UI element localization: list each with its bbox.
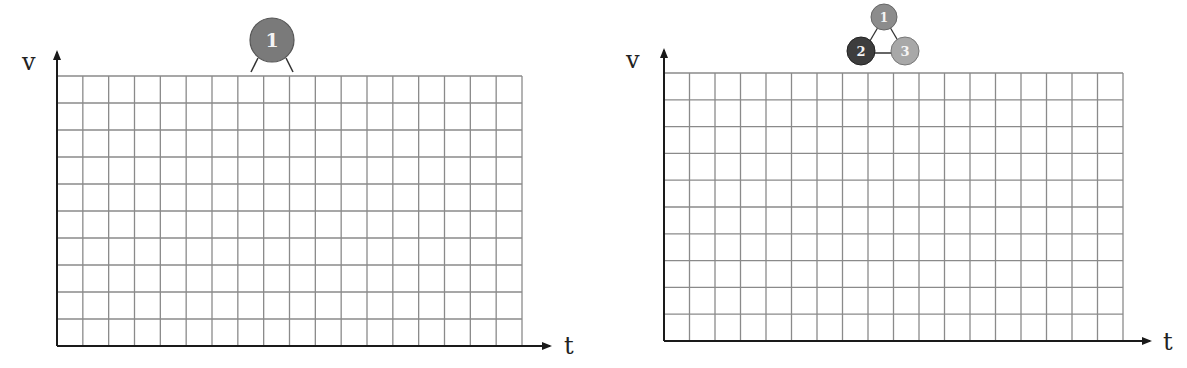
- right-grid: [664, 73, 1123, 341]
- right-atom-1-label: 1: [880, 11, 888, 25]
- left-bond-leg-1: [251, 58, 258, 72]
- left-panel: v t 1: [21, 18, 574, 360]
- diagram-canvas: v t 1 v t 1 2 3: [0, 0, 1187, 368]
- right-x-axis-label: t: [1163, 328, 1173, 356]
- right-y-axis-label: v: [625, 46, 640, 74]
- left-grid: [57, 76, 522, 346]
- left-molecule: 1: [250, 18, 294, 72]
- left-atom-1-label: 1: [265, 29, 278, 51]
- left-y-axis-label: v: [21, 48, 36, 76]
- right-panel: v t 1 2 3: [625, 4, 1173, 356]
- right-atom-2-label: 2: [856, 44, 865, 59]
- left-bond-leg-2: [286, 58, 293, 72]
- left-x-axis-label: t: [564, 332, 574, 360]
- right-atom-3-label: 3: [900, 44, 909, 59]
- right-molecule: 1 2 3: [847, 4, 919, 65]
